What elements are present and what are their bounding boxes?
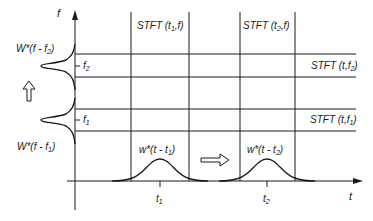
window-f1-label: W*(f - f1)	[17, 142, 55, 153]
f2-tick-label: f2	[83, 61, 90, 72]
stft-diagram	[0, 0, 373, 221]
window-t2-curve	[219, 159, 315, 181]
t1-tick-label: t1	[156, 194, 163, 205]
window-f1-curve	[41, 98, 75, 144]
up-arrow-icon	[23, 81, 35, 101]
stft-t1-label: STFT (t1,f)	[137, 21, 184, 32]
f1-tick-label: f1	[83, 115, 90, 126]
t-axis-arrowhead-icon	[353, 178, 363, 184]
stft-f2-label: STFT (t,f2)	[311, 61, 358, 72]
right-arrow-icon	[201, 154, 229, 166]
t-axis-label: t	[349, 191, 352, 202]
stft-t2-label: STFT (t2,f)	[243, 21, 290, 32]
f-axis-arrowhead-icon	[72, 10, 78, 20]
window-f2-label: W*(f - f2)	[16, 44, 54, 55]
stft-f1-label: STFT (t,f1)	[310, 115, 357, 126]
window-t2-label: w*(t - t2)	[247, 145, 283, 156]
f-axis-label: f	[57, 8, 60, 19]
window-t1-label: w*(t - t1)	[139, 145, 175, 156]
t2-tick-label: t2	[263, 194, 270, 205]
window-t1-curve	[112, 159, 208, 181]
